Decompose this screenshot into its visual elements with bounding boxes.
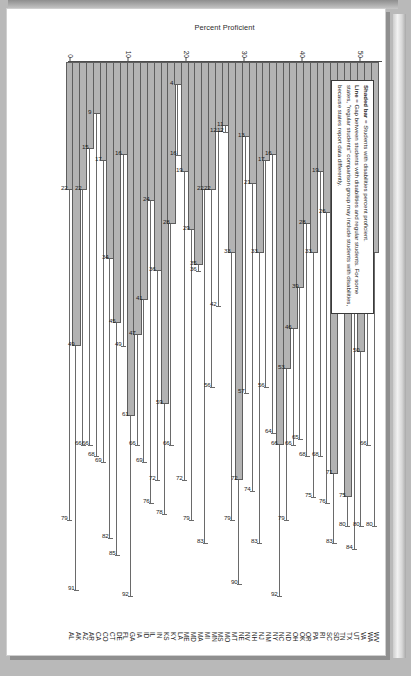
bar-value-label: 19 — [176, 167, 183, 173]
category-label-wa: WA — [366, 632, 372, 642]
document-page: Percent Proficient 010203040506070809010… — [6, 8, 386, 656]
gap-line-value-label: 66 — [285, 440, 292, 446]
category-label-nj: NJ — [258, 632, 264, 640]
category-label-oh: OH — [292, 632, 298, 642]
gap-line — [143, 300, 144, 462]
gap-line-value-label: 66 — [75, 440, 82, 446]
category-label-me: ME — [183, 632, 189, 642]
bar-value-label: 28 — [163, 219, 170, 225]
y-axis-tick-label: 10 — [125, 32, 132, 58]
gap-line-value-label: 76 — [319, 498, 326, 504]
gap-line-value-label: 74 — [244, 486, 251, 492]
gap-line-end-cap — [345, 526, 350, 527]
bar-value-label: 71 — [326, 469, 333, 475]
gap-line-end-cap — [318, 456, 323, 457]
bar-value-label: 50 — [353, 347, 360, 353]
chart-row: 2256 — [210, 62, 217, 642]
bar-value-label: 36 — [149, 266, 156, 272]
category-label-ut: UT — [353, 632, 359, 641]
legend-text-shaded-bar: = Students with disabilities percent pro… — [363, 118, 370, 241]
category-label-nv: NV — [244, 632, 250, 641]
bar-value-label: 46 — [285, 324, 292, 330]
gap-line-value-label: 36 — [190, 266, 197, 272]
gap-line — [265, 161, 266, 387]
gap-line-value-label: 83 — [251, 538, 258, 544]
y-axis-tick-label: 50 — [357, 32, 364, 58]
bar-value-label: 34 — [102, 254, 109, 260]
gap-line — [191, 230, 192, 520]
gap-line-value-label: 79 — [61, 515, 68, 521]
gap-line — [137, 335, 138, 445]
category-label-tx: TX — [346, 632, 352, 640]
y-axis-tick-label: 20 — [183, 32, 190, 58]
gap-line-value-label: 68 — [312, 451, 319, 457]
gap-line — [96, 114, 97, 456]
bar-value-label: 22 — [204, 184, 211, 190]
category-label-sd: SD — [332, 632, 338, 641]
gap-line — [306, 224, 307, 456]
y-axis-title-label: Percent Proficient — [195, 23, 255, 32]
bar-disabilities-proficient — [167, 62, 175, 224]
gap-line-end-cap — [162, 514, 167, 515]
bar-value-label: 21 — [244, 179, 251, 185]
y-axis-tick-label: 30 — [241, 32, 248, 58]
gap-line-value-label: 91 — [68, 585, 75, 591]
legend-key-line: Line — [354, 85, 361, 98]
gap-line-value-label: 79 — [183, 515, 190, 521]
gap-line — [272, 155, 273, 433]
bar-value-label: 45 — [109, 318, 116, 324]
gap-line-value-label: 80 — [366, 521, 373, 527]
gap-line-value-label: 56 — [204, 382, 211, 388]
gap-line-value-label: 49 — [115, 341, 122, 347]
gap-line — [116, 323, 117, 555]
category-label-wv: WV — [373, 632, 379, 642]
gap-line-value-label: 92 — [122, 590, 129, 596]
gap-line — [82, 190, 83, 445]
rotated-chart-container: Percent Proficient 010203040506070809010… — [10, 18, 382, 646]
gap-line-value-label: 16 — [170, 150, 177, 156]
bar-value-label: 19 — [312, 167, 319, 173]
gap-line-value-label: 66 — [81, 440, 88, 446]
gap-line-value-label: 85 — [109, 550, 116, 556]
gap-line-value-label: 84 — [346, 544, 353, 550]
bar-value-label: 22 — [61, 184, 68, 190]
y-axis-tick-label: 0 — [67, 32, 74, 58]
bar-value-label: 24 — [142, 196, 149, 202]
gap-line — [164, 404, 165, 514]
gap-line-value-label: 83 — [197, 538, 204, 544]
category-label-id: ID — [142, 632, 148, 638]
category-label-nc: NC — [278, 632, 284, 641]
category-label-in: IN — [156, 632, 162, 638]
bar-value-label: 22 — [75, 184, 82, 190]
gap-line-value-label: 57 — [237, 387, 244, 393]
category-label-va: VA — [359, 632, 365, 640]
gap-line — [293, 329, 294, 445]
page-right-edge — [393, 14, 406, 658]
category-label-ne: NE — [237, 632, 243, 641]
gap-line-end-cap — [372, 526, 377, 527]
bar-value-label: 47 — [129, 329, 136, 335]
gap-line — [204, 190, 205, 544]
category-label-mi: MI — [203, 632, 209, 639]
gap-line-value-label: 64 — [265, 428, 272, 434]
category-label-mo: MO — [224, 632, 230, 642]
category-label-fl: FL — [122, 632, 128, 639]
category-label-ia: IA — [136, 632, 142, 638]
gap-line-value-label: 69 — [136, 457, 143, 463]
gap-line-value-label: 92 — [271, 590, 278, 596]
gap-line-value-label: 75 — [305, 492, 312, 498]
bar-value-label: 9 — [88, 109, 91, 115]
gap-line — [333, 474, 334, 544]
category-label-nd: ND — [285, 632, 291, 641]
gap-line-value-label: 66 — [163, 440, 170, 446]
gap-line-end-cap — [216, 306, 221, 307]
legend-key-shaded-bar: Shaded bar — [363, 85, 370, 118]
legend-line-1: Shaded bar = Students with disabilities … — [361, 85, 370, 309]
gap-line — [245, 137, 246, 392]
gap-line-value-label: 76 — [142, 498, 149, 504]
gap-line-value-label: 82 — [102, 532, 109, 538]
gap-line-value-label: 12 — [217, 126, 224, 132]
chart-row: 7290 — [238, 62, 245, 642]
gap-line — [69, 190, 70, 521]
gap-line-end-cap — [189, 520, 194, 521]
